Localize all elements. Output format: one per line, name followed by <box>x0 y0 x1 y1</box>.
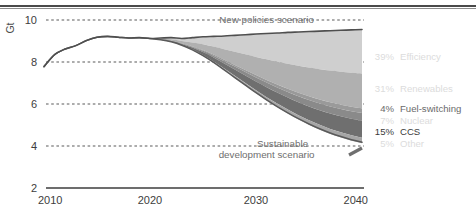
legend-item-other[interactable]: 5%Other <box>368 139 476 149</box>
sustainable-development-scenario-line2: development scenario <box>219 149 315 160</box>
legend-percent: 15% <box>368 127 394 137</box>
legend-percent: 31% <box>368 84 394 94</box>
legend-item-nuclear[interactable]: 7%Nuclear <box>368 116 476 126</box>
legend-label: Renewables <box>400 84 453 94</box>
x-tick-2010: 2010 <box>38 194 62 206</box>
y-tick-8: 8 <box>31 56 37 68</box>
y-axis-unit-label: Gt <box>4 22 16 33</box>
legend-percent: 5% <box>368 139 394 149</box>
y-tick-6: 6 <box>31 98 37 110</box>
legend-percent: 4% <box>368 104 394 114</box>
y-tick-2: 2 <box>31 182 37 194</box>
legend-label: CCS <box>400 127 420 137</box>
new-policies-scenario: New policies scenario <box>219 14 314 25</box>
legend-item-fuel-switching[interactable]: 4%Fuel-switching <box>368 104 476 114</box>
legend-label: Other <box>400 139 424 149</box>
legend-item-ccs[interactable]: 15%CCS <box>368 127 476 137</box>
legend-percent: 7% <box>368 116 394 126</box>
legend-label: Nuclear <box>400 116 433 126</box>
y-tick-4: 4 <box>31 140 37 152</box>
y-tick-10: 10 <box>25 14 37 26</box>
legend-item-renewables[interactable]: 31%Renewables <box>368 84 476 94</box>
legend: 39%Efficiency31%Renewables4%Fuel-switchi… <box>368 52 476 149</box>
legend-label: Efficiency <box>400 52 441 62</box>
legend-label: Fuel-switching <box>400 104 461 114</box>
x-tick-2040: 2040 <box>344 194 368 206</box>
x-tick-2030: 2030 <box>244 194 268 206</box>
chart-root: 1086422010202020302040 New policies scen… <box>0 0 476 211</box>
legend-percent: 39% <box>368 52 394 62</box>
x-tick-2020: 2020 <box>138 194 162 206</box>
legend-item-efficiency[interactable]: 39%Efficiency <box>368 52 476 62</box>
sustainable-development-scenario-line1: Sustainable <box>257 138 309 149</box>
